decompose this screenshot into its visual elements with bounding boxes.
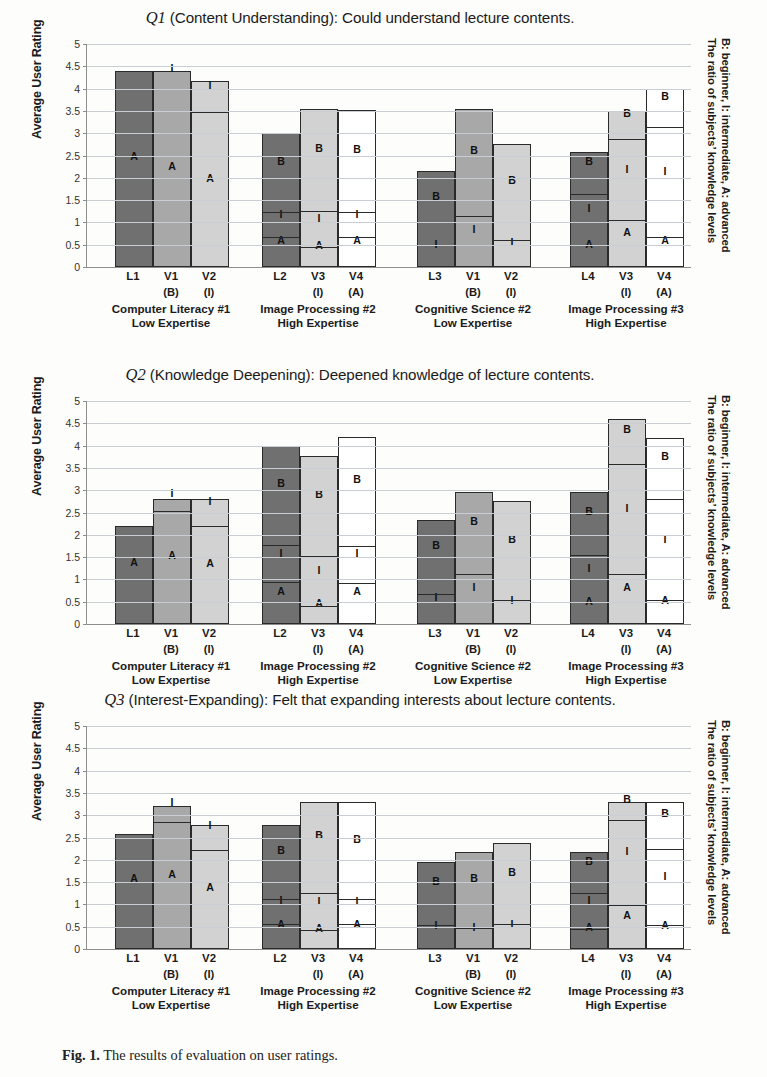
segment-divider — [455, 216, 493, 217]
segment-label-i: I — [301, 564, 337, 576]
bar-q3-g3-v1: IB — [455, 852, 493, 949]
x-tick-sublabel: (A) — [645, 286, 683, 298]
right-legend-line1-q3: The ratio of subjects’ knowledge levels — [706, 720, 718, 925]
x-tick-label-v4: V4 — [645, 627, 683, 639]
x-tick-sublabel: (I) — [492, 968, 530, 980]
x-tick-label-l3: L3 — [416, 270, 454, 282]
segment-label-a: A — [154, 160, 190, 172]
bar-q1-g3-v2: IB — [493, 144, 531, 267]
question-text-q3: (Interest-Expanding): Felt that expandin… — [124, 691, 615, 708]
x-tick-label-v3: V3 — [299, 270, 337, 282]
segment-label-a: A — [154, 868, 190, 880]
plot-area-q1: AAIAIAIBAIBAIBIBIBIBAIBAIBAIB 00.511.522… — [86, 44, 691, 268]
y-axis-tick-label: 4.5 — [65, 742, 80, 754]
bar-q3-g3-l3: IB — [417, 862, 455, 949]
segment-label-i: I — [263, 208, 299, 220]
group-caption-expertise: Low Expertise — [92, 998, 250, 1012]
y-axis-label-q3: Average User Rating — [30, 701, 44, 821]
y-axis-tickmark — [83, 178, 87, 179]
group-caption-g2: Image Processing #2High Expertise — [239, 984, 397, 1011]
x-tick-sublabel: (B) — [152, 643, 190, 655]
y-axis-tick-label: 2 — [74, 529, 80, 541]
x-tick-label-v2: V2 — [492, 627, 530, 639]
bar-q3-g1-v2: AI — [191, 825, 229, 949]
group-caption-g4: Image Processing #3High Expertise — [547, 659, 705, 686]
segment-divider — [570, 893, 608, 894]
question-id-q3: Q3 — [104, 690, 124, 709]
gridline — [87, 771, 691, 772]
x-tick-label-v2: V2 — [492, 270, 530, 282]
gridline — [87, 882, 691, 883]
x-tick-label-v1: V1 — [454, 952, 492, 964]
segment-label-i: I — [339, 208, 375, 220]
x-tick-label-v3: V3 — [607, 627, 645, 639]
x-tick-label-v3: V3 — [607, 952, 645, 964]
x-tick-label-v4: V4 — [645, 270, 683, 282]
gridline — [87, 815, 691, 816]
group-caption-name: Computer Literacy #1 — [92, 984, 250, 998]
segment-divider — [191, 850, 229, 851]
y-axis-tickmark — [83, 44, 87, 45]
y-axis-tick-label: 4.5 — [65, 417, 80, 429]
segment-divider — [338, 212, 376, 213]
segment-divider — [646, 127, 684, 128]
segment-label-a: A — [154, 549, 190, 561]
y-axis-tickmark — [83, 579, 87, 580]
x-tick-sublabel: (A) — [337, 286, 375, 298]
y-axis-tick-label: 1.5 — [65, 551, 80, 563]
y-axis-tick-label: 4 — [74, 440, 80, 452]
chart-title-q2: Q2 (Knowledge Deepening): Deepened knowl… — [0, 365, 720, 385]
bar-q1-g1-l1: A — [115, 71, 153, 267]
gridline — [87, 904, 691, 905]
chart-title-q1: Q1 (Content Understanding): Could unders… — [0, 8, 720, 28]
y-axis-tick-label: 5 — [74, 720, 80, 732]
segment-divider — [608, 220, 646, 221]
y-axis-tickmark — [83, 904, 87, 905]
gridline — [87, 401, 691, 402]
x-tick-sublabel: (I) — [492, 286, 530, 298]
bar-q3-g2-l2: AIB — [262, 825, 300, 949]
segment-divider — [262, 924, 300, 925]
y-axis-label-wrap-q2: Average User Rating — [36, 401, 56, 624]
y-axis-tick-label: 0.5 — [65, 921, 80, 933]
y-axis-tickmark — [83, 66, 87, 67]
x-tick-label-v4: V4 — [337, 270, 375, 282]
question-id-q1: Q1 — [146, 8, 166, 27]
segment-label-b: B — [609, 107, 645, 119]
y-axis-tick-label: 2 — [74, 854, 80, 866]
y-axis-tick-label: 1.5 — [65, 876, 80, 888]
bar-q2-g2-v3: AIB — [300, 456, 338, 624]
x-axis-labels-q1: L1V1(B)V2(I)Computer Literacy #1Low Expe… — [86, 270, 690, 340]
segment-divider — [646, 849, 684, 850]
group-caption-expertise: Low Expertise — [92, 673, 250, 687]
right-legend-line1-q2: The ratio of subjects’ knowledge levels — [706, 395, 718, 600]
bar-q3-g4-l4: AIB — [570, 852, 608, 949]
y-axis-tick-label: 1.5 — [65, 194, 80, 206]
segment-divider — [191, 112, 229, 113]
x-tick-sublabel: (A) — [337, 643, 375, 655]
segment-divider — [417, 925, 455, 926]
segment-label-i: I — [154, 62, 190, 74]
x-tick-sublabel: (B) — [454, 643, 492, 655]
x-tick-sublabel: (B) — [152, 286, 190, 298]
y-axis-tickmark — [83, 401, 87, 402]
segment-divider — [262, 237, 300, 238]
x-tick-label-l3: L3 — [416, 952, 454, 964]
x-tick-sublabel: (B) — [454, 286, 492, 298]
x-tick-label-v2: V2 — [190, 627, 228, 639]
segment-label-i: I — [609, 163, 645, 175]
segment-label-i: I — [192, 819, 228, 831]
group-caption-g3: Cognitive Science #2Low Expertise — [394, 659, 552, 686]
gridline — [87, 178, 691, 179]
chart-title-q3: Q3 (Interest-Expanding): Felt that expan… — [0, 690, 720, 710]
y-axis-tickmark — [83, 111, 87, 112]
y-axis-tickmark — [83, 468, 87, 469]
y-axis-tick-label: 2.5 — [65, 832, 80, 844]
segment-label-b: B — [301, 142, 337, 154]
figure-caption-text: The results of evaluation on user rating… — [103, 1047, 338, 1063]
y-axis-tick-label: 0.5 — [65, 239, 80, 251]
segment-divider — [153, 511, 191, 512]
y-axis-label-wrap-q1: Average User Rating — [36, 44, 56, 267]
gridline — [87, 927, 691, 928]
segment-divider — [646, 925, 684, 926]
